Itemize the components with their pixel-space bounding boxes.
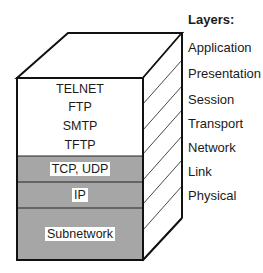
- layer-session: Session: [188, 92, 234, 107]
- layer-link: Link: [188, 164, 212, 179]
- protocol-tftp: TFTP: [17, 138, 143, 152]
- band-subnetwork-label: Subnetwork: [17, 227, 143, 241]
- band-tcp-udp-label: TCP, UDP: [17, 162, 143, 176]
- protocol-telnet: TELNET: [17, 82, 143, 96]
- protocol-smtp: SMTP: [17, 119, 143, 133]
- layer-presentation: Presentation: [188, 66, 261, 81]
- layer-application: Application: [188, 40, 252, 55]
- layer-physical: Physical: [188, 188, 236, 203]
- layer-transport: Transport: [188, 116, 243, 131]
- protocol-ftp: FTP: [17, 100, 143, 114]
- band-ip-label: IP: [17, 188, 143, 202]
- legend-title: Layers:: [188, 12, 234, 27]
- layer-network: Network: [188, 140, 236, 155]
